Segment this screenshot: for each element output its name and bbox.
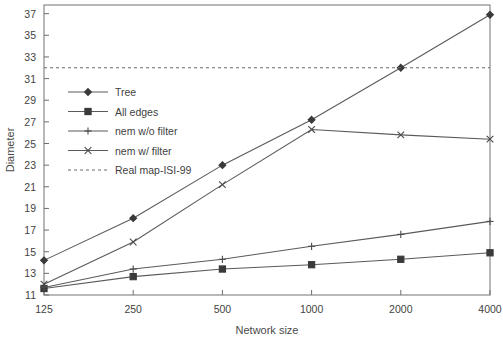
chart-figure: 1113151719212325272931333537125250500100… xyxy=(0,0,503,342)
y-axis-tick-label: 27 xyxy=(24,116,36,128)
data-point-marker xyxy=(85,89,92,96)
x-axis-title: Network size xyxy=(236,324,299,336)
y-axis-tick-label: 13 xyxy=(24,267,36,279)
series-nem-w-filter xyxy=(41,126,494,287)
data-point-marker xyxy=(85,108,91,114)
y-axis-tick-label: 29 xyxy=(24,94,36,106)
data-point-marker xyxy=(130,215,137,222)
x-axis-tick-label: 1000 xyxy=(300,303,324,315)
data-point-marker xyxy=(487,250,493,256)
y-axis-tick-label: 25 xyxy=(24,138,36,150)
series-line xyxy=(44,221,490,287)
data-point-marker xyxy=(219,162,226,169)
series-tree xyxy=(41,11,494,263)
x-axis-tick-label: 250 xyxy=(124,303,142,315)
x-axis-tick-label: 500 xyxy=(214,303,232,315)
data-point-marker xyxy=(219,266,225,272)
legend-label: All edges xyxy=(115,106,158,118)
y-axis-tick-label: 35 xyxy=(24,29,36,41)
y-axis-tick-label: 21 xyxy=(24,181,36,193)
plot-frame xyxy=(44,5,490,295)
y-axis-tick-label: 23 xyxy=(24,159,36,171)
y-axis-tick-label: 31 xyxy=(24,73,36,85)
x-axis-tick-label: 2000 xyxy=(389,303,413,315)
series-line xyxy=(44,15,490,261)
legend-label: nem w/o filter xyxy=(115,125,178,137)
legend-item-nem-w-filter: nem w/ filter xyxy=(68,145,172,157)
data-point-marker xyxy=(487,11,494,18)
data-point-marker xyxy=(41,257,48,264)
legend-label: Real map-ISI-99 xyxy=(115,164,192,176)
y-axis-tick-label: 17 xyxy=(24,224,36,236)
legend-item-tree: Tree xyxy=(68,86,136,98)
data-point-marker xyxy=(308,116,315,123)
y-axis-title: Diameter xyxy=(4,127,16,172)
data-point-marker xyxy=(130,274,136,280)
legend-label: Tree xyxy=(115,86,136,98)
x-axis-tick-label: 125 xyxy=(35,303,53,315)
y-axis-tick-label: 37 xyxy=(24,8,36,20)
y-axis-tick-label: 11 xyxy=(25,289,36,301)
legend-label: nem w/ filter xyxy=(115,145,172,157)
series-line xyxy=(44,129,490,284)
series-all-edges xyxy=(41,250,493,292)
series-line xyxy=(44,253,490,289)
x-axis-tick-label: 4000 xyxy=(478,303,502,315)
legend-item-real-map-isi-99: Real map-ISI-99 xyxy=(68,164,192,176)
data-point-marker xyxy=(309,262,315,268)
y-axis-tick-label: 15 xyxy=(24,246,36,258)
legend-item-nem-w-o-filter: nem w/o filter xyxy=(68,125,178,137)
data-point-marker xyxy=(398,256,404,262)
legend-item-all-edges: All edges xyxy=(68,106,158,118)
y-axis-tick-label: 33 xyxy=(24,51,36,63)
y-axis-tick-label: 19 xyxy=(24,202,36,214)
